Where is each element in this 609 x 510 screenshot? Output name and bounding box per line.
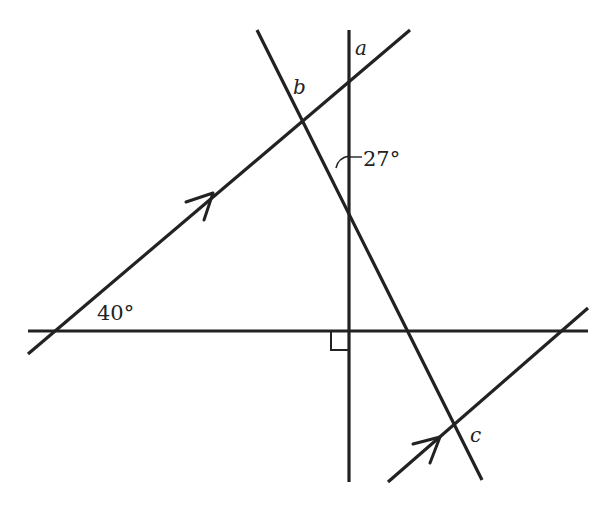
angle-arc-icon	[336, 156, 349, 168]
label-a: a	[355, 36, 367, 60]
right-angle-marker-icon	[331, 331, 349, 350]
transversal-line	[257, 30, 482, 480]
upper-parallel-line	[28, 30, 410, 354]
angle-diagram: a b 27° 40° c	[0, 0, 609, 510]
label-c: c	[470, 423, 481, 447]
label-b: b	[293, 75, 306, 99]
diagram-canvas: a b 27° 40° c	[0, 0, 609, 510]
label-27-degrees: 27°	[363, 147, 400, 171]
label-40-degrees: 40°	[97, 301, 134, 325]
lower-parallel-line	[388, 308, 588, 482]
